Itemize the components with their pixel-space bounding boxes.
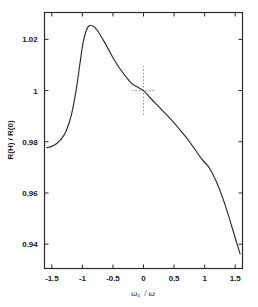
- x-axis-title: ωc / ω: [131, 288, 155, 298]
- chart-figure: [0, 0, 258, 307]
- x-tick-label: 1.5: [230, 274, 241, 283]
- x-tick-label: 1: [202, 274, 206, 283]
- y-tick-label: 1: [0, 86, 38, 95]
- x-tick-label: 0: [141, 274, 145, 283]
- y-tick-label: 1.02: [0, 35, 38, 44]
- plot-frame: [45, 13, 243, 269]
- x-tick-label: -1.5: [45, 274, 58, 283]
- y-tick-label: 0.96: [0, 188, 38, 197]
- x-tick-label: 0.5: [169, 274, 180, 283]
- data-series-curve: [47, 25, 240, 253]
- x-axis-ticks: [52, 13, 235, 269]
- x-tick-label: -0.5: [106, 274, 119, 283]
- y-tick-label: 0.94: [0, 240, 38, 249]
- chart-page: -1.5-1-0.500.511.5 0.940.960.9811.02 ωc …: [0, 0, 258, 307]
- y-axis-title: R(H) / R(0): [6, 120, 15, 159]
- x-tick-label: -1: [79, 274, 86, 283]
